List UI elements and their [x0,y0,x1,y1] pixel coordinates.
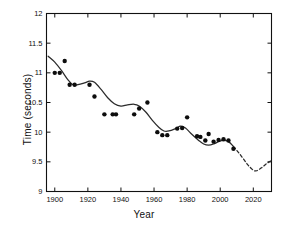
x-tick-label: 2020 [245,195,262,204]
data-point [216,138,220,142]
data-point [87,83,91,87]
data-points [53,59,236,151]
data-point [137,106,141,110]
data-point [185,115,189,119]
x-axis-title: Year [0,209,288,220]
x-tick-label: 1940 [113,195,130,204]
data-point [114,112,118,116]
data-point [145,100,149,104]
y-tick-label: 12 [34,9,42,18]
data-point [231,147,235,151]
data-point [53,71,57,75]
x-tick-label: 1920 [80,195,97,204]
y-axis-title: Time (seconds) [22,55,33,165]
data-point [211,139,215,143]
y-tick-label: 11 [35,68,43,77]
data-point [180,126,184,130]
chart-plot: 190019201940196019802000202099.51010.511… [0,0,288,231]
x-tick-label: 1900 [46,195,63,204]
data-point [62,59,66,63]
y-tick-label: 10 [34,128,42,137]
data-point [155,130,159,134]
data-point [175,126,179,130]
data-point [206,132,210,136]
data-point [67,83,71,87]
data-point [92,94,96,98]
tick-labels: 190019201940196019802000202099.51010.511… [28,9,262,203]
y-tick-label: 9 [38,187,42,196]
plot-frame [47,14,272,192]
chart-container: 190019201940196019802000202099.51010.511… [0,0,288,231]
data-point [72,83,76,87]
x-tick-label: 1980 [179,195,196,204]
y-tick-label: 11.5 [28,39,42,48]
data-point [221,137,225,141]
x-tick-label: 1960 [146,195,163,204]
data-point [58,71,62,75]
extrapolation-line [233,146,271,171]
x-tick-label: 2000 [212,195,229,204]
data-point [132,112,136,116]
tick-marks [47,14,272,192]
fitted-trend-line [48,56,233,146]
y-tick-label: 9.5 [32,157,42,166]
data-point [198,135,202,139]
data-point [160,133,164,137]
data-point [226,138,230,142]
data-point [203,138,207,142]
data-point [165,133,169,137]
data-point [102,112,106,116]
